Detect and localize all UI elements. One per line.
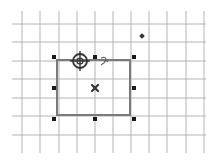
- crosshair-target-icon[interactable]: [70, 51, 90, 71]
- resize-handle-bottom-left[interactable]: [52, 117, 56, 121]
- resize-handle-top-right[interactable]: [132, 55, 136, 59]
- resize-handle-top-center[interactable]: [93, 55, 97, 59]
- resize-handle-middle-left[interactable]: [52, 86, 56, 90]
- drawing-canvas[interactable]: [0, 0, 216, 167]
- resize-handle-middle-right[interactable]: [132, 86, 136, 90]
- resize-handle-bottom-center[interactable]: [93, 117, 97, 121]
- resize-handle-bottom-right[interactable]: [132, 117, 136, 121]
- diamond-point-icon[interactable]: [139, 33, 145, 39]
- resize-handle-top-left[interactable]: [52, 55, 56, 59]
- grid: [12, 11, 206, 153]
